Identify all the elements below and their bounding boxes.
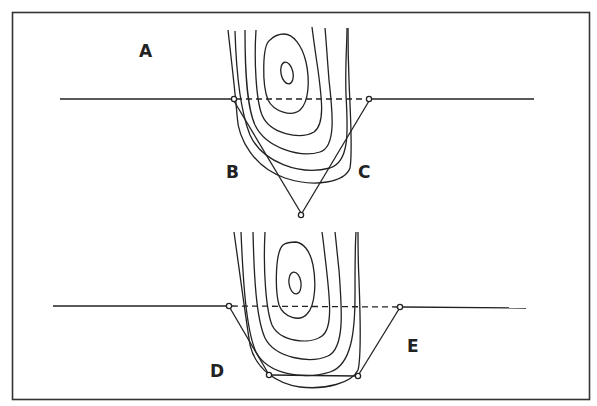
bottom-nodes [226,303,402,378]
node-top-left [231,96,236,101]
label-b: B [226,162,239,182]
node-bottom-left [226,303,231,308]
node-base-left [266,372,271,377]
top-outline-right [302,101,369,213]
contour-6 [228,28,351,183]
top-outline-left [234,101,301,213]
bottom-panel [53,232,526,388]
bottom-surface-dashed [232,306,397,307]
bottom-outline-right [359,309,399,374]
label-a: A [139,41,153,61]
top-panel [60,27,534,213]
top-contours [228,27,351,183]
bottom-outline-left [230,308,268,373]
diagram-canvas: A B C D E [0,0,597,406]
bottom-outline-base [271,375,356,376]
bottom-contours [234,232,360,388]
contour-b5 [241,232,356,376]
contour-2 [264,34,309,113]
node-top-right [366,96,371,101]
contour-3 [255,27,321,135]
contour-b3 [264,232,329,341]
label-d: D [210,361,224,381]
contour-1 [279,61,295,85]
node-top-apex [298,212,303,217]
node-base-right [355,373,360,378]
label-e: E [407,336,419,356]
node-bottom-right [397,304,402,309]
label-c: C [358,162,370,182]
bottom-surface-right [402,307,526,308]
contour-b1 [288,271,303,294]
